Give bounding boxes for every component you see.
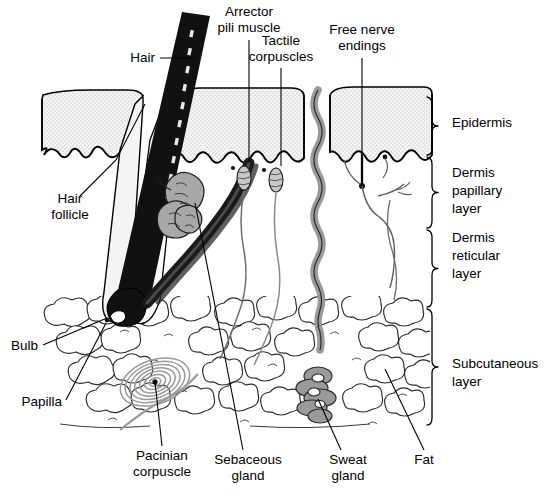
- layer-label-subcutaneous-layer: Subcutaneouslayer: [452, 356, 539, 389]
- skin-anatomy-illustration: EpidermisDermispapillarylayerDermisretic…: [0, 0, 547, 498]
- layer-label-epidermis: Epidermis: [452, 115, 512, 130]
- label-hair: Hair: [130, 50, 155, 65]
- label-sebaceous-gland: Sebaceousgland: [214, 452, 282, 483]
- label-papilla: Papilla: [21, 394, 62, 409]
- label-tactile-corpuscles: Tactilecorpuscles: [249, 33, 314, 64]
- label-hair-follicle: Hairfollicle: [51, 191, 89, 222]
- label-bulb: Bulb: [11, 338, 38, 353]
- label-sweat-gland: Sweatgland: [329, 452, 367, 483]
- layer-label-dermis-papillary-layer: Dermispapillarylayer: [452, 165, 503, 216]
- layer-labels: EpidermisDermispapillarylayerDermisretic…: [452, 115, 539, 389]
- hair-follicle-structure: [103, 12, 210, 326]
- callout-labels: HairArrectorpili muscleTactilecorpuscles…: [11, 4, 434, 483]
- layer-label-dermis-reticular-layer: Dermisreticularlayer: [452, 230, 501, 281]
- bracket-dermis-reticular-layer: [427, 230, 438, 307]
- leader-line-sweat-gland: [318, 399, 341, 450]
- label-free-nerve-endings: Free nerveendings: [329, 22, 394, 53]
- skin-cross-section-diagram: EpidermisDermispapillarylayerDermisretic…: [0, 0, 547, 498]
- free-nerve-endings-structure: [344, 152, 412, 300]
- bracket-dermis-papillary-layer: [427, 157, 438, 228]
- label-pacinian-corpuscle: Paciniancorpuscle: [133, 448, 191, 479]
- label-arrector-pili-muscle: Arrectorpili muscle: [217, 4, 280, 35]
- label-fat: Fat: [414, 452, 434, 467]
